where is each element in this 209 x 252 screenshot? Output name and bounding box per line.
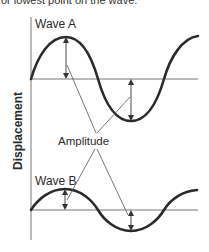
amplitude-label: Amplitude — [58, 135, 109, 147]
leader-line-a2 — [97, 97, 130, 133]
wave-b-label: Wave B — [35, 174, 77, 188]
leader-line-a1 — [67, 65, 96, 133]
leader-line-b2 — [97, 149, 128, 215]
wave-diagram: Wave A Wave B Amplitude Displacement — [0, 0, 209, 252]
wave-a-label: Wave A — [35, 17, 76, 31]
y-axis-label: Displacement — [11, 92, 25, 170]
